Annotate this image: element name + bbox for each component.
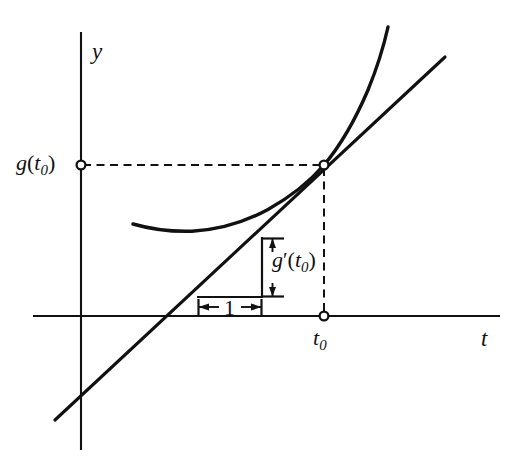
axes-group (33, 32, 500, 450)
t0-subscript: 0 (319, 337, 326, 353)
derivative-label: g′(t0) (272, 249, 316, 275)
run-dimension-right-arrowhead (251, 303, 262, 310)
run-length-label: 1 (224, 297, 235, 319)
function-value-label: g(t0) (16, 152, 55, 178)
y-axis-label: y (92, 40, 102, 63)
function-value-close-paren: ) (48, 150, 55, 175)
t-axis-label: t (481, 327, 487, 350)
tangency-point-marker (320, 161, 329, 170)
slope-triangle-group (197, 237, 263, 298)
function-value-arg-subscript: 0 (40, 162, 47, 178)
guide-lines-group (83, 165, 324, 313)
run-dimension-left-arrowhead (199, 303, 210, 310)
function-value-base: g (16, 150, 27, 175)
derivative-base: g (272, 247, 283, 272)
tangent-line (55, 57, 445, 420)
derivative-open-paren: ( (288, 247, 295, 272)
t0-abscissa-label: t0 (313, 327, 327, 353)
rise-dimension-lower-arrowhead (269, 287, 276, 297)
y-intercept-marker (77, 161, 86, 170)
derivative-close-paren: ) (309, 247, 316, 272)
function-curve-group (133, 27, 388, 231)
figure-canvas: | ============ --> (0, 0, 526, 465)
function-curve-g (133, 27, 388, 231)
derivative-arg-subscript: 0 (301, 259, 308, 275)
t0-axis-marker (320, 312, 329, 321)
derivative-tangent-figure: | ============ --> (0, 0, 526, 465)
tangent-line-group (55, 57, 445, 420)
